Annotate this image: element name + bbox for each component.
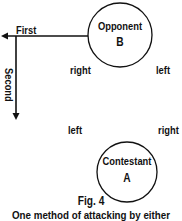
figure-caption: One method of attacking by either <box>5 209 177 221</box>
contestant-letter: A <box>99 172 155 184</box>
second-arrow-label: Second <box>3 68 15 102</box>
first-arrowhead-icon <box>1 33 8 40</box>
opponent-right-side-label: right <box>70 64 91 76</box>
second-arrowhead-icon <box>13 113 20 120</box>
attack-method-diagram: First Second Opponent B right left left … <box>0 0 182 221</box>
opponent-name: Opponent <box>93 20 147 32</box>
contestant-left-side-label: left <box>68 124 82 136</box>
first-arrow-label: First <box>16 24 36 36</box>
figure-number: Fig. 4 <box>14 195 169 207</box>
contestant-name: Contestant <box>99 155 155 167</box>
contestant-right-side-label: right <box>158 124 179 136</box>
opponent-left-side-label: left <box>156 64 170 76</box>
opponent-letter: B <box>93 36 147 48</box>
